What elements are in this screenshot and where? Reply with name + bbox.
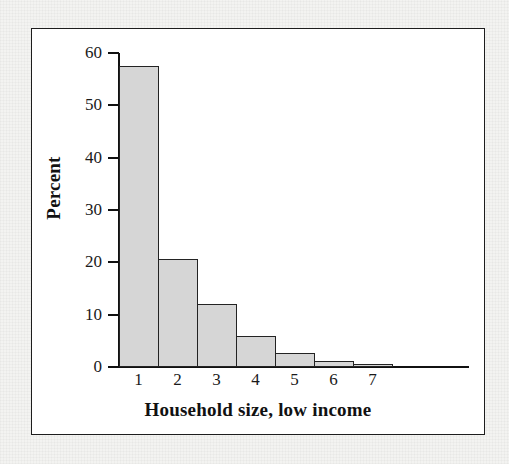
y-tick-mark [108, 52, 119, 54]
y-tick-label: 10 [56, 306, 102, 323]
bar [158, 259, 198, 367]
x-axis-title: Household size, low income [32, 399, 484, 421]
y-tick-mark [108, 366, 119, 368]
bar [236, 336, 276, 367]
x-tick-label: 4 [236, 371, 276, 388]
bar [275, 353, 315, 367]
y-tick-label: 0 [56, 358, 102, 375]
x-tick-label: 5 [275, 371, 315, 388]
x-tick-label: 6 [314, 371, 354, 388]
x-tick-label: 3 [197, 371, 237, 388]
bar [119, 66, 159, 367]
y-tick-mark [108, 209, 119, 211]
bar [314, 361, 354, 367]
y-tick-label: 60 [56, 44, 102, 61]
plot-area: 0102030405060 1234567 Household size, lo… [32, 29, 484, 434]
y-tick-mark [108, 261, 119, 263]
y-tick-label: 20 [56, 253, 102, 270]
bar [353, 364, 393, 367]
y-tick-label: 50 [56, 96, 102, 113]
y-tick-mark [108, 104, 119, 106]
x-tick-label: 1 [119, 371, 159, 388]
figure-frame: 0102030405060 1234567 Household size, lo… [31, 28, 485, 435]
x-tick-label: 7 [353, 371, 393, 388]
y-axis-title: Percent [43, 128, 65, 248]
bar [197, 304, 237, 367]
y-tick-mark [108, 157, 119, 159]
x-tick-label: 2 [158, 371, 198, 388]
y-tick-mark [108, 314, 119, 316]
